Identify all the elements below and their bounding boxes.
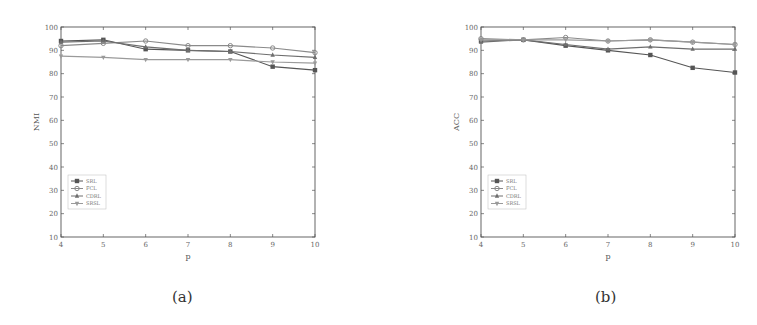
legend-label: FCL — [506, 185, 517, 191]
legend-label: SRSL — [506, 200, 521, 206]
y-tick-label: 50 — [469, 140, 478, 148]
y-axis-title: ACC — [452, 113, 461, 132]
y-tick-label: 10 — [469, 234, 478, 242]
y-tick-label: 70 — [469, 94, 478, 102]
x-axis: 45678910 — [479, 27, 740, 249]
y-tick-label: 60 — [49, 117, 58, 125]
x-axis-title: p — [605, 252, 610, 261]
legend-label: CDRL — [506, 193, 522, 199]
y-tick-label: 20 — [469, 210, 478, 218]
y-tick-label: 30 — [469, 187, 478, 195]
x-tick-label: 9 — [270, 241, 274, 249]
x-tick-label: 10 — [311, 241, 320, 249]
y-tick-label: 40 — [49, 164, 58, 172]
legend-label: SRL — [506, 178, 517, 184]
x-tick-label: 9 — [690, 241, 694, 249]
legend-label: FCL — [86, 185, 97, 191]
y-tick-label: 60 — [469, 117, 478, 125]
x-tick-label: 5 — [101, 241, 105, 249]
legend-label: CDRL — [86, 193, 102, 199]
x-axis-title: p — [185, 252, 190, 261]
series-srsl — [479, 38, 737, 47]
x-tick-label: 8 — [228, 241, 232, 249]
legend: SRLFCLCDRLSRSL — [488, 175, 526, 209]
x-axis: 45678910 — [59, 27, 320, 249]
chart-a-svg: 10203040506070809010045678910pNMISRLFCLC… — [0, 0, 330, 280]
x-tick-label: 10 — [731, 241, 740, 249]
x-tick-label: 4 — [479, 241, 484, 249]
x-tick-label: 6 — [143, 241, 148, 249]
y-tick-label: 90 — [49, 47, 58, 55]
y-tick-label: 20 — [49, 210, 58, 218]
y-tick-label: 70 — [49, 94, 58, 102]
y-tick-label: 10 — [49, 234, 58, 242]
x-tick-label: 7 — [186, 241, 190, 249]
legend: SRLFCLCDRLSRSL — [68, 175, 106, 209]
caption-b: (b) — [595, 288, 616, 306]
y-tick-label: 80 — [49, 70, 58, 78]
legend-label: SRSL — [86, 200, 101, 206]
y-tick-label: 100 — [45, 24, 58, 32]
y-tick-label: 30 — [49, 187, 58, 195]
x-tick-label: 7 — [606, 241, 610, 249]
y-tick-label: 50 — [49, 140, 58, 148]
x-tick-label: 5 — [521, 241, 525, 249]
caption-a: (a) — [172, 288, 193, 306]
x-tick-label: 4 — [59, 241, 64, 249]
x-tick-label: 8 — [648, 241, 652, 249]
chart-b-svg: 10203040506070809010045678910pACCSRLFCLC… — [420, 0, 750, 280]
chart-b-acc: 10203040506070809010045678910pACCSRLFCLC… — [420, 0, 750, 280]
y-tick-label: 40 — [469, 164, 478, 172]
legend-label: SRL — [86, 178, 97, 184]
chart-a-nmi: 10203040506070809010045678910pNMISRLFCLC… — [0, 0, 330, 280]
y-tick-label: 90 — [469, 47, 478, 55]
y-tick-label: 100 — [465, 24, 478, 32]
y-axis-title: NMI — [32, 113, 41, 131]
x-tick-label: 6 — [563, 241, 568, 249]
y-tick-label: 80 — [469, 70, 478, 78]
series-srsl — [59, 54, 317, 65]
